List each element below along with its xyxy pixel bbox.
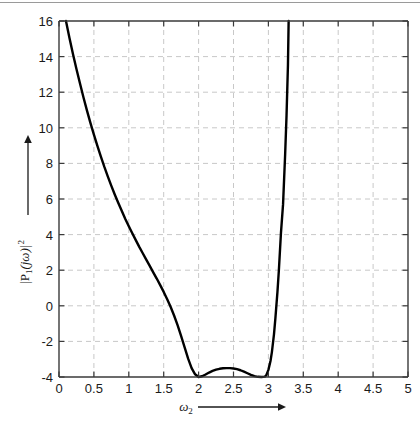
x-tick-label: 3.5 <box>294 381 312 396</box>
x-tick-label: 5 <box>404 381 411 396</box>
x-tick-label: 0 <box>55 381 62 396</box>
y-axis-title-superscript: 2 <box>16 240 26 245</box>
x-axis-title-group: ω2 <box>179 399 286 416</box>
x-axis-title-subscript: 2 <box>188 406 193 416</box>
figure-canvas: 0 0.5 1 1.5 2 2.5 3 3.5 4 4.5 5 16 14 12… <box>0 0 420 426</box>
y-axis-title-group: |P1(jω)|2 <box>16 135 34 284</box>
y-tick-label: 14 <box>39 50 53 65</box>
x-tick-label: 4.5 <box>364 381 382 396</box>
y-tick-label: 10 <box>39 121 53 136</box>
y-tick-label: 4 <box>46 228 53 243</box>
y-tick-label: 0 <box>46 299 53 314</box>
y-axis-title: |P1(jω)|2 <box>16 240 34 284</box>
x-axis-arrow-head <box>278 403 286 411</box>
y-tick-labels: 16 14 12 10 8 6 4 2 0 -2 -4 <box>39 14 53 385</box>
y-tick-label: 2 <box>46 263 53 278</box>
y-tick-label: 8 <box>46 156 53 171</box>
x-tick-label: 1.5 <box>155 381 173 396</box>
y-tick-label: -4 <box>41 370 53 385</box>
y-tick-label: 6 <box>46 192 53 207</box>
plot-svg: 0 0.5 1 1.5 2 2.5 3 3.5 4 4.5 5 16 14 12… <box>0 0 420 426</box>
y-axis-arrow-head <box>24 135 32 143</box>
y-axis-title-mid: (jω)| <box>17 245 32 270</box>
x-axis-title-main: ω <box>179 399 188 414</box>
x-tick-label: 3 <box>265 381 272 396</box>
x-tick-label: 2 <box>195 381 202 396</box>
x-tick-labels: 0 0.5 1 1.5 2 2.5 3 3.5 4 4.5 5 <box>55 381 411 396</box>
x-tick-label: 2.5 <box>224 381 242 396</box>
x-tick-label: 0.5 <box>85 381 103 396</box>
x-tick-label: 1 <box>125 381 132 396</box>
x-tick-label: 4 <box>335 381 342 396</box>
y-tick-label: -2 <box>41 334 53 349</box>
x-axis-title: ω2 <box>179 399 193 416</box>
y-tick-label: 16 <box>39 14 53 29</box>
y-tick-label: 12 <box>39 85 53 100</box>
y-axis-title-open: |P <box>17 274 32 284</box>
